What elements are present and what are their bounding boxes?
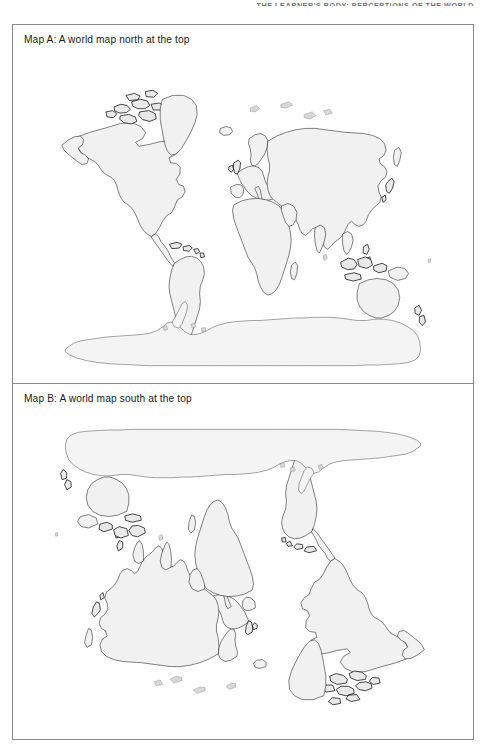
new-guinea <box>389 267 409 280</box>
central-america <box>151 234 174 266</box>
figure-frame: Map A: A world map north at the top Map … <box>12 24 474 740</box>
indonesia <box>341 257 387 281</box>
running-head: THE LEARNER'S BODY: PERCEPTIONS OF THE W… <box>0 0 488 6</box>
madagascar <box>188 515 195 533</box>
caribbean <box>170 242 205 257</box>
kamchatka <box>85 628 93 647</box>
map-a-stage <box>13 61 473 379</box>
australia <box>86 477 129 516</box>
arctic-specks <box>250 102 332 119</box>
japan <box>382 178 394 202</box>
map-a-caption: Map A: A world map north at the top <box>24 33 190 46</box>
iceland <box>220 127 232 136</box>
iceland <box>253 660 265 669</box>
new-guinea <box>77 515 97 528</box>
iberia <box>231 184 244 197</box>
ocean-specks <box>55 532 58 536</box>
india <box>315 225 326 253</box>
southeast-asia <box>133 541 143 564</box>
kamchatka <box>393 147 401 166</box>
madagascar <box>290 262 297 280</box>
new-zealand <box>415 305 425 325</box>
scandinavia <box>218 629 237 661</box>
map-b-stage <box>13 416 473 734</box>
world-map-south-up <box>42 416 444 734</box>
new-zealand <box>60 469 70 489</box>
caribbean <box>282 537 317 552</box>
greenland <box>160 95 197 155</box>
world-map-north-up <box>42 61 444 379</box>
australia <box>357 279 400 318</box>
ocean-specks <box>428 259 431 263</box>
greenland <box>289 640 326 700</box>
antarctica <box>65 317 420 365</box>
sri-lanka <box>159 534 163 540</box>
map-b-caption: Map B: A world map south at the top <box>24 392 192 405</box>
central-america <box>311 529 334 561</box>
antarctica <box>65 429 420 477</box>
scandinavia <box>249 134 268 166</box>
indonesia <box>99 514 145 538</box>
arctic-specks <box>154 676 236 693</box>
arctic-islands <box>322 671 380 705</box>
arctic-islands <box>106 90 164 124</box>
sri-lanka <box>323 254 327 260</box>
southeast-asia <box>343 231 353 254</box>
running-head-text: THE LEARNER'S BODY: PERCEPTIONS OF THE W… <box>257 1 474 6</box>
map-panel-b: Map B: A world map south at the top <box>13 384 473 739</box>
india <box>160 542 171 570</box>
map-panel-a: Map A: A world map north at the top <box>13 25 473 384</box>
japan <box>92 593 104 617</box>
iberia <box>242 597 255 610</box>
